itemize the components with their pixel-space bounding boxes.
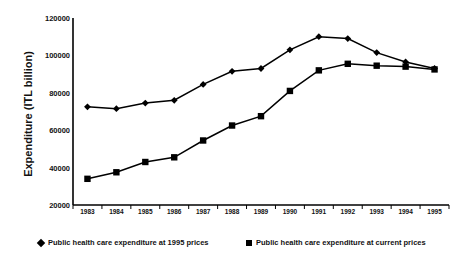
data-point [287,88,293,94]
data-point [345,61,351,67]
data-point [200,81,207,88]
x-tick-label: 1987 [196,208,210,215]
data-point [373,62,379,68]
data-point [200,137,206,143]
plot-area [0,0,456,268]
x-tick-label: 1983 [80,208,94,215]
x-tick-label: 1992 [341,208,355,215]
data-point [171,97,178,104]
data-point [258,113,264,119]
data-point [171,154,177,160]
x-tick-label: 1988 [225,208,239,215]
data-point [84,176,90,182]
x-tick-label: 1990 [283,208,297,215]
x-tick-label: 1991 [312,208,326,215]
data-point [113,169,119,175]
data-point [113,105,120,112]
data-point [316,67,322,73]
data-point [344,35,351,42]
axes-lines [73,18,449,205]
data-point [315,33,322,40]
data-series [84,33,438,182]
series-line-2 [87,64,434,179]
x-tick-label: 1993 [369,208,383,215]
legend-item-current-prices: Public health care expenditure at curren… [246,238,426,247]
x-tick-label: 1994 [398,208,412,215]
chart-figure: Expenditure (ITL billion) 20000400006000… [0,0,456,268]
data-point [229,68,236,75]
x-tick-label: 1989 [254,208,268,215]
x-tick-label: 1985 [138,208,152,215]
diamond-marker-icon [37,238,45,246]
x-tick-label: 1986 [167,208,181,215]
x-tick-label: 1995 [427,208,441,215]
data-point [373,49,380,56]
data-point [431,66,437,72]
data-point [84,103,91,110]
data-point [142,159,148,165]
data-point [402,63,408,69]
legend-item-1995-prices: Public health care expenditure at 1995 p… [38,238,209,247]
legend-label-1995-prices: Public health care expenditure at 1995 p… [48,238,209,247]
legend-label-current-prices: Public health care expenditure at curren… [256,238,426,247]
data-point [229,122,235,128]
series-line-1 [87,37,434,109]
square-marker-icon [246,240,252,246]
x-tick-label: 1984 [109,208,123,215]
data-point [142,100,149,107]
